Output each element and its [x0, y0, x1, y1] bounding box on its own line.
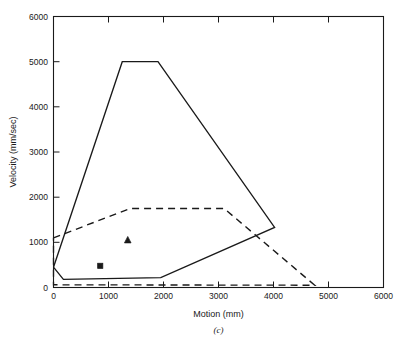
- y-tick-label: 3000: [29, 147, 48, 157]
- x-tick-label: 4000: [264, 291, 283, 301]
- y-tick-label: 1000: [29, 237, 48, 247]
- y-tick-label: 2000: [29, 192, 48, 202]
- x-tick-label: 3000: [209, 291, 228, 301]
- y-tick-labels: 0 1000 2000 3000 4000 5000 6000: [29, 12, 48, 293]
- velocity-motion-chart: 0 1000 2000 3000 4000 5000 6000 0 1000 2…: [0, 0, 405, 341]
- x-tick-label: 5000: [319, 291, 338, 301]
- y-tick-label: 0: [43, 283, 48, 293]
- x-axis-title: Motion (mm): [193, 309, 244, 319]
- x-tick-label: 6000: [374, 291, 393, 301]
- y-axis-title: Velocity (mm/sec): [8, 116, 18, 187]
- y-tick-label: 5000: [29, 57, 48, 67]
- y-axis-ticks: [54, 17, 60, 288]
- x-axis-ticks: [54, 17, 384, 288]
- plot-frame: [54, 17, 384, 288]
- x-tick-label: 0: [51, 291, 56, 301]
- solid-envelope-path: [54, 62, 275, 280]
- x-tick-labels: 0 1000 2000 3000 4000 5000 6000: [51, 291, 393, 301]
- x-tick-label: 1000: [99, 291, 118, 301]
- square-point: [98, 263, 103, 268]
- data-series-group: [54, 62, 315, 286]
- dashed-envelope-path: [54, 208, 315, 285]
- triangle-point: [124, 236, 131, 242]
- y-tick-label: 6000: [29, 12, 48, 22]
- data-markers-group: [98, 236, 131, 268]
- y-tick-label: 4000: [29, 102, 48, 112]
- figure-container: 0 1000 2000 3000 4000 5000 6000 0 1000 2…: [0, 0, 405, 341]
- figure-caption: (c): [214, 325, 224, 335]
- x-tick-label: 2000: [154, 291, 173, 301]
